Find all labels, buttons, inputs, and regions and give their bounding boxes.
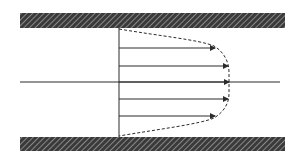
velocity-profile-diagram	[0, 0, 305, 168]
bottom-wall	[20, 137, 285, 151]
top-wall	[20, 13, 285, 28]
